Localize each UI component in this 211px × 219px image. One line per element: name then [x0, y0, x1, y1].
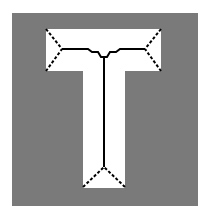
skeleton-diagram [0, 0, 211, 219]
